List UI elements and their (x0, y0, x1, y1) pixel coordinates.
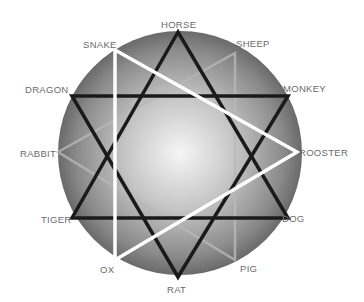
label-dragon: DRAGON (25, 85, 69, 95)
label-rat: RAT (167, 285, 186, 295)
label-dog: DOG (282, 214, 305, 224)
zodiac-circle (58, 31, 302, 275)
label-sheep: SHEEP (236, 39, 270, 49)
label-rabbit: RABBIT (20, 149, 56, 159)
label-snake: SNAKE (83, 40, 117, 50)
label-monkey: MONKEY (283, 84, 326, 94)
label-rooster: ROOSTER (299, 148, 348, 158)
label-pig: PIG (240, 264, 257, 274)
label-ox: OX (100, 265, 114, 275)
label-tiger: TIGER (41, 215, 72, 225)
label-horse: HORSE (161, 20, 196, 30)
